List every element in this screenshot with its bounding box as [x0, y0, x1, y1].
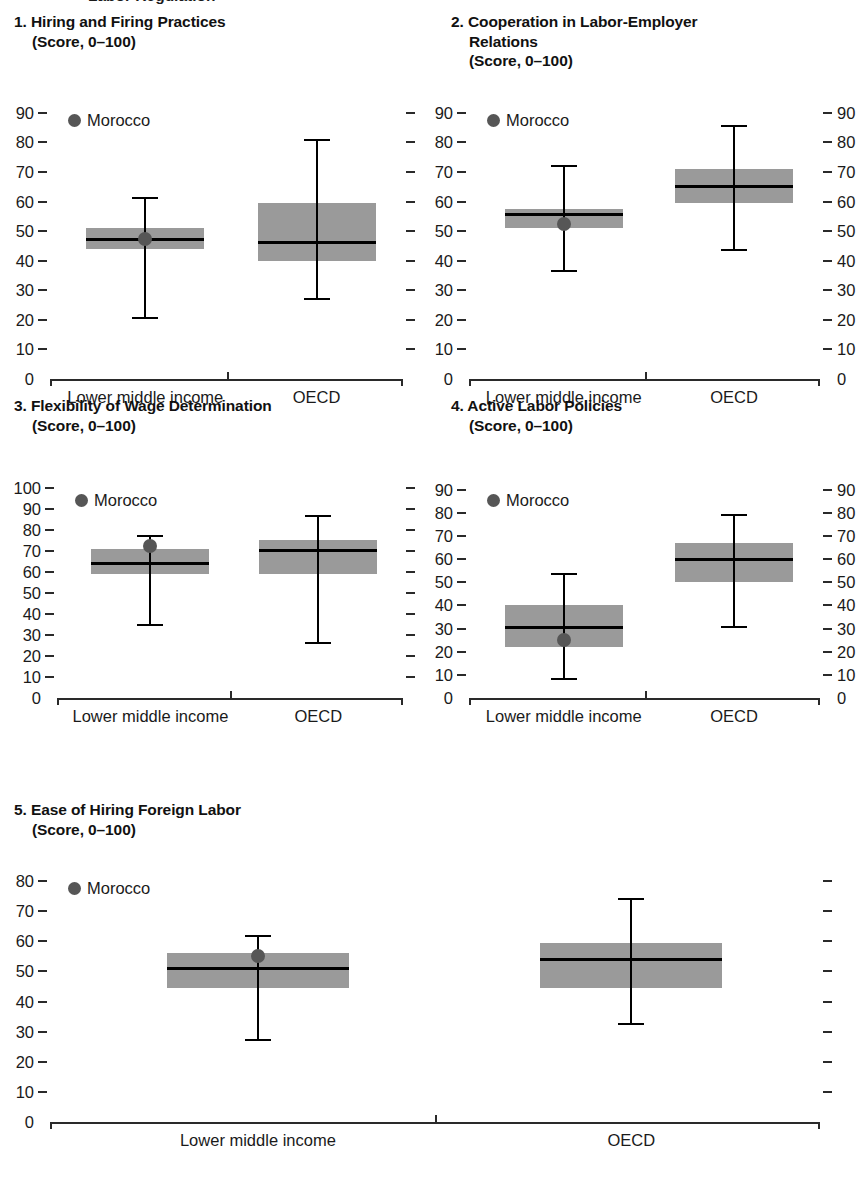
- y-tick-mark-left: [38, 1001, 47, 1003]
- legend-label: Morocco: [87, 880, 150, 896]
- whisker-cap-upper: [618, 898, 644, 900]
- y-tick-label-right: 0: [837, 690, 860, 707]
- y-tick-mark-left: [38, 1031, 47, 1033]
- median-line: [167, 967, 349, 970]
- y-tick-mark-right: [823, 910, 832, 912]
- y-tick-mark-right: [823, 1091, 832, 1093]
- y-tick-label-left: 80: [0, 873, 34, 890]
- y-tick-label-left: 0: [0, 1114, 34, 1131]
- y-tick-mark-right: [823, 970, 832, 972]
- y-tick-label-right: 20: [837, 644, 860, 661]
- y-tick-label-left: 40: [0, 994, 34, 1011]
- y-tick-label-right: 60: [837, 194, 860, 211]
- panel-title: 5. Ease of Hiring Foreign Labor(Score, 0…: [14, 800, 817, 839]
- y-tick-mark-left: [38, 1061, 47, 1063]
- y-tick-mark-right: [823, 1031, 832, 1033]
- y-tick-mark-left: [38, 940, 47, 942]
- y-tick-mark-right: [823, 940, 832, 942]
- whisker-cap-lower: [245, 1039, 271, 1041]
- y-tick-mark-left: [38, 910, 47, 912]
- y-tick-label-right: 50: [837, 574, 860, 591]
- y-tick-mark-right: [823, 1061, 832, 1063]
- x-axis-tick: [50, 1122, 52, 1129]
- y-tick-label-right: 10: [837, 667, 860, 684]
- y-tick-label-right: 40: [837, 597, 860, 614]
- y-tick-label-left: 30: [0, 1024, 34, 1041]
- y-tick-label-left: 60: [0, 933, 34, 950]
- y-tick-mark-left: [38, 880, 47, 882]
- y-tick-label-left: 70: [0, 903, 34, 920]
- y-tick-label-right: 70: [837, 164, 860, 181]
- x-axis-tick: [818, 1122, 820, 1129]
- y-tick-label-right: 80: [837, 134, 860, 151]
- y-tick-label-right: 90: [837, 482, 860, 499]
- median-line: [540, 958, 722, 961]
- x-category-label: OECD: [511, 1131, 751, 1150]
- panel-title-line-1: 5. Ease of Hiring Foreign Labor: [14, 800, 817, 820]
- y-tick-mark-right: [823, 1001, 832, 1003]
- y-tick-label-right: 0: [837, 371, 860, 388]
- x-axis-tick: [435, 1115, 437, 1122]
- y-tick-label-right: 20: [837, 312, 860, 329]
- x-axis-line: [50, 1122, 820, 1124]
- y-tick-mark-left: [38, 1091, 47, 1093]
- y-tick-mark-left: [38, 970, 47, 972]
- y-tick-mark-right: [823, 880, 832, 882]
- y-tick-label-right: 70: [837, 528, 860, 545]
- y-tick-label-right: 50: [837, 223, 860, 240]
- y-tick-label-right: 30: [837, 621, 860, 638]
- legend-marker-icon: [68, 882, 81, 895]
- y-tick-label-right: 60: [837, 551, 860, 568]
- y-tick-label-right: 30: [837, 282, 860, 299]
- whisker-cap-lower: [618, 1023, 644, 1025]
- y-tick-label-right: 40: [837, 253, 860, 270]
- y-tick-label-left: 10: [0, 1084, 34, 1101]
- y-tick-label-right: 80: [837, 505, 860, 522]
- y-tick-label-left: 50: [0, 963, 34, 980]
- x-category-label: Lower middle income: [138, 1131, 378, 1150]
- y-tick-label-right: 10: [837, 341, 860, 358]
- panel-title-line-2: (Score, 0–100): [14, 820, 817, 840]
- whisker-lower: [630, 943, 632, 1023]
- whisker-cap-upper: [245, 935, 271, 937]
- y-tick-label-right: 90: [837, 105, 860, 122]
- y-tick-label-left: 20: [0, 1054, 34, 1071]
